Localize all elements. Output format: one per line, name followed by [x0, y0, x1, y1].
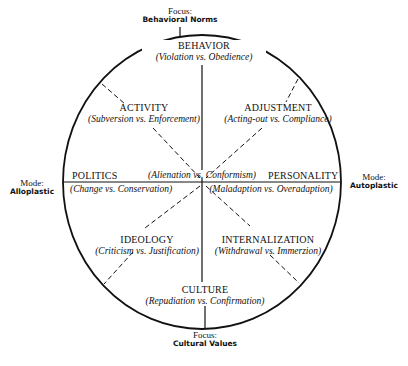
behavior-sub: (Violation vs. Obedience) [142, 52, 266, 63]
politics-sub: (Change vs. Conservation) [70, 184, 172, 195]
sector-culture: CULTURE (Repudiation vs. Confirmation) [134, 284, 276, 306]
focus-top-label: Focus: Behavioral Norms [140, 6, 220, 25]
internalization-sub: (Withdrawal vs. Immerzion) [208, 246, 328, 257]
ideology-title: IDEOLOGY [82, 234, 212, 246]
sector-behavior: BEHAVIOR (Violation vs. Obedience) [142, 40, 266, 62]
personality-sub: (Maladaption vs. Overadaption) [204, 184, 338, 195]
focus-top-value: Behavioral Norms [140, 16, 220, 25]
sector-ideology: IDEOLOGY (Criticism vs. Justification) [82, 234, 212, 256]
diag-ur-outer [286, 79, 298, 102]
sector-personality-title-wrap: PERSONALITY [268, 170, 339, 182]
sector-internalization: INTERNALIZATION (Withdrawal vs. Immerzio… [208, 234, 328, 256]
activity-sub: (Subversion vs. Enforcement) [82, 114, 206, 125]
sector-politics-title-wrap: POLITICS [72, 170, 118, 182]
center-sub: (Alienation vs. Conformism) [140, 170, 264, 181]
ideology-sub: (Criticism vs. Justification) [82, 246, 212, 257]
culture-sub: (Repudiation vs. Confirmation) [134, 296, 276, 307]
behavior-title: BEHAVIOR [142, 40, 266, 52]
diag-ul-outer [102, 84, 125, 104]
internalization-title: INTERNALIZATION [208, 234, 328, 246]
diag-lr-outer [270, 255, 299, 283]
focus-bottom-value: Cultural Values [160, 340, 250, 349]
adjustment-sub: (Acting-out vs. Compliance) [216, 114, 340, 125]
mode-left-value: Alloplastic [4, 188, 60, 197]
sector-politics-sub-wrap: (Change vs. Conservation) [70, 184, 172, 195]
sector-adjustment: ADJUSTMENT (Acting-out vs. Compliance) [216, 102, 340, 124]
sector-activity: ACTIVITY (Subversion vs. Enforcement) [82, 102, 206, 124]
mode-right-value: Autoplastic [344, 182, 404, 191]
sector-center: (Alienation vs. Conformism) [140, 170, 264, 181]
mode-left-label: Mode: Alloplastic [4, 178, 60, 197]
diag-ll-outer [104, 252, 133, 284]
sector-personality-sub-wrap: (Maladaption vs. Overadaption) [204, 184, 338, 195]
adjustment-title: ADJUSTMENT [216, 102, 340, 114]
activity-title: ACTIVITY [82, 102, 206, 114]
mode-right-label: Mode: Autoplastic [344, 172, 404, 191]
personality-title: PERSONALITY [268, 170, 339, 182]
focus-bottom-label: Focus: Cultural Values [160, 330, 250, 349]
politics-title: POLITICS [72, 170, 118, 182]
culture-title: CULTURE [134, 284, 276, 296]
